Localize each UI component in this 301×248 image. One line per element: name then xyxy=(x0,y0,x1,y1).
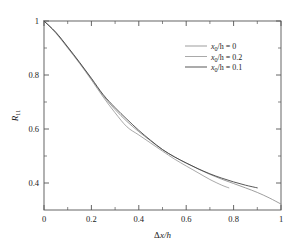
legend-label: x0/h = 0 xyxy=(210,42,236,52)
x-tick-label: 0.8 xyxy=(228,214,239,224)
y-tick-label: 0.6 xyxy=(28,124,39,134)
x-axis-title: Δx/h xyxy=(154,230,171,240)
y-tick-label: 0.4 xyxy=(28,178,39,188)
x-tick-label: 0.6 xyxy=(181,214,192,224)
correlation-line-chart: 00.20.40.60.81 0.40.60.81 x0/h = 0x0/h =… xyxy=(0,0,301,248)
x-tick-label: 0.4 xyxy=(133,214,144,224)
y-tick-label: 0.8 xyxy=(28,70,39,80)
x-tick-label: 0.2 xyxy=(86,214,97,224)
x-tick-label: 0 xyxy=(42,214,46,224)
chart-figure: 00.20.40.60.81 0.40.60.81 x0/h = 0x0/h =… xyxy=(0,0,301,248)
chart-background xyxy=(0,0,301,248)
x-tick-label: 1 xyxy=(279,214,283,224)
y-tick-label: 1 xyxy=(35,16,39,26)
